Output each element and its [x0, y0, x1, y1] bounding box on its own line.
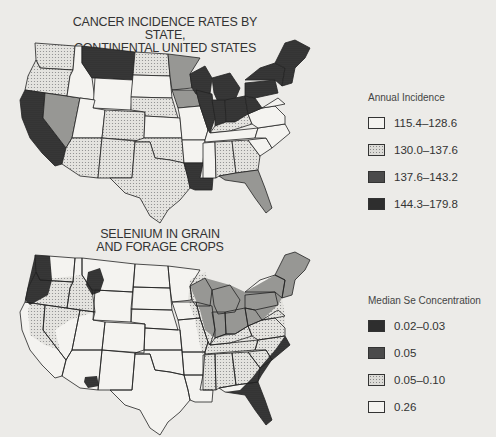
- legend-label: 115.4–128.6: [394, 117, 457, 129]
- state-md: [262, 98, 285, 108]
- legend-swatch-light: [368, 374, 385, 386]
- legend-swatch-medium: [368, 171, 385, 183]
- selenium-map: [0, 250, 350, 437]
- legend-title: Annual Incidence: [368, 92, 458, 103]
- legend-swatch-light: [368, 144, 385, 156]
- legend-item: 0.26: [368, 399, 481, 415]
- legend-item: 0.05–0.10: [368, 372, 481, 388]
- legend-swatch-white: [368, 401, 385, 413]
- legend-swatch-white: [368, 117, 385, 129]
- state-az: [62, 138, 102, 178]
- state-ms: [203, 142, 216, 178]
- legend-label: 137.6–143.2: [394, 171, 458, 183]
- legend-swatch-medium: [368, 347, 385, 359]
- legend-title: Median Se Concentration: [368, 295, 481, 306]
- legend-item: 137.6–143.2: [368, 169, 458, 185]
- legend-label: 0.02–0.03: [394, 320, 445, 332]
- legend-rows: 115.4–128.6130.0–137.6137.6–143.2144.3–1…: [368, 115, 458, 212]
- state-mt: [82, 46, 135, 80]
- state-ar: [182, 140, 205, 163]
- state-wi: [190, 66, 212, 94]
- legend-swatch-dark: [368, 320, 385, 332]
- legend-swatch-dark: [368, 198, 385, 210]
- legend-label: 0.05: [394, 347, 416, 359]
- state-wa: [35, 43, 75, 70]
- legend-label: 0.26: [394, 401, 416, 413]
- state-nd: [133, 52, 170, 76]
- incidence-legend: Annual Incidence 115.4–128.6130.0–137.61…: [368, 92, 458, 223]
- state-fl: [219, 170, 272, 213]
- legend-item: 0.02–0.03: [368, 318, 481, 334]
- legend-item: 130.0–137.6: [368, 142, 458, 158]
- legend-label: 0.05–0.10: [394, 374, 445, 386]
- state-nm: [98, 138, 135, 178]
- legend-item: 0.05: [368, 345, 481, 361]
- legend-label: 130.0–137.6: [394, 144, 458, 156]
- cancer-incidence-map: [0, 38, 350, 228]
- state-sd: [131, 75, 172, 98]
- legend-label: 144.3–179.8: [394, 198, 458, 210]
- legend-rows: 0.02–0.030.050.05–0.100.26: [368, 318, 481, 415]
- selenium-legend: Median Se Concentration 0.02–0.030.050.0…: [368, 295, 481, 426]
- state-ks: [144, 116, 182, 138]
- state-wy: [93, 78, 133, 110]
- legend-item: 144.3–179.8: [368, 196, 458, 212]
- state-co: [102, 110, 145, 141]
- legend-item: 115.4–128.6: [368, 115, 458, 131]
- state-in: [212, 100, 226, 126]
- state-pa: [245, 80, 278, 98]
